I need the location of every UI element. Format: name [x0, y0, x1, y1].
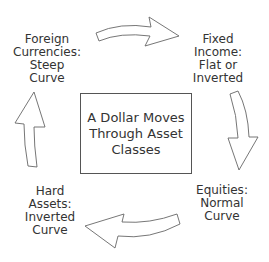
center-title: A Dollar Moves Through Asset Classes: [87, 110, 184, 158]
node-hard-assets: Hard Assets: Inverted Curve: [18, 185, 82, 237]
node-fixed-income: Fixed Income: Flat or Inverted: [182, 33, 254, 85]
node-foreign-currencies: Foreign Currencies: Steep Curve: [10, 33, 84, 85]
arrow-foreign-to-fixed: [96, 17, 179, 46]
arrow-equities-to-hard: [85, 214, 180, 248]
arrow-fixed-to-equities: [228, 91, 258, 170]
node-equities: Equities: Normal Curve: [180, 184, 264, 223]
center-box: A Dollar Moves Through Asset Classes: [80, 93, 192, 174]
arrow-hard-to-foreign: [15, 92, 45, 167]
